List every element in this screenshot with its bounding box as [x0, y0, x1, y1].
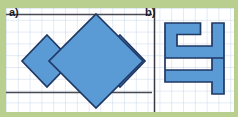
diamond-center: [49, 14, 143, 108]
zigzag-outline: [165, 23, 224, 94]
panel-label-a: a): [9, 8, 19, 18]
panel-b-figure: [165, 23, 224, 105]
panel-a-figure: [22, 14, 145, 108]
grid-paper: a) b): [6, 8, 234, 112]
figure-page: a) b): [0, 0, 238, 117]
figures-layer: [6, 8, 234, 112]
panel-label-b: b): [145, 8, 155, 18]
